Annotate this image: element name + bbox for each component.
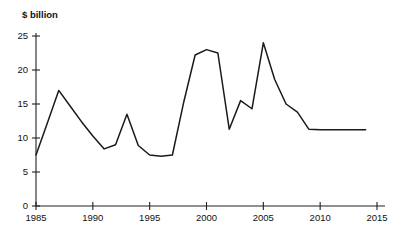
y-tick-labels: 0510152025 <box>17 30 28 211</box>
x-axis: 1985199019952000200520102015 <box>25 202 387 223</box>
chart-canvas: $ billion 0510152025 1985199019952000200… <box>0 0 401 243</box>
x-tick-labels: 1985199019952000200520102015 <box>25 212 387 223</box>
y-tick-label-15: 15 <box>17 98 28 109</box>
x-tick-label-2010: 2010 <box>310 212 331 223</box>
x-tick-label-1990: 1990 <box>82 212 103 223</box>
x-tick-label-1985: 1985 <box>25 212 46 223</box>
y-axis-title: $ billion <box>22 9 58 20</box>
y-tick-label-0: 0 <box>23 200 28 211</box>
data-line-series-0 <box>36 43 366 157</box>
y-tick-label-25: 25 <box>17 30 28 41</box>
y-tick-label-5: 5 <box>23 166 28 177</box>
x-tick-label-1995: 1995 <box>139 212 160 223</box>
y-tick-label-10: 10 <box>17 132 28 143</box>
y-axis: 0510152025 <box>17 30 40 211</box>
line-chart: $ billion 0510152025 1985199019952000200… <box>0 0 401 243</box>
y-tick-label-20: 20 <box>17 64 28 75</box>
x-tick-label-2005: 2005 <box>253 212 274 223</box>
data-series-group <box>36 43 366 157</box>
x-tick-label-2000: 2000 <box>196 212 217 223</box>
x-tick-label-2015: 2015 <box>366 212 387 223</box>
